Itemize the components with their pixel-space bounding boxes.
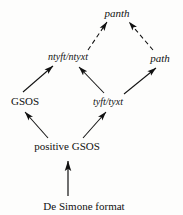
node-tyft-tyxt: tyft/tyxt — [93, 97, 123, 107]
edge-ntyft-panth — [88, 22, 107, 50]
node-panth: panth — [104, 8, 129, 19]
edge-tyft-path — [124, 68, 156, 94]
node-de-simone-format: De Simone format — [43, 201, 124, 212]
diagram-edges — [0, 0, 183, 215]
node-gsos: GSOS — [11, 96, 39, 107]
edge-path-panth — [129, 22, 153, 50]
edge-posgsos-gsos — [25, 112, 48, 138]
node-path: path — [150, 53, 170, 64]
node-ntyft-ntyxt: ntyft/ntyxt — [48, 52, 88, 62]
edge-tyft-ntyft — [79, 67, 104, 93]
node-positive-gsos: positive GSOS — [34, 141, 100, 152]
edge-posgsos-tyft — [83, 112, 106, 138]
hierarchy-diagram: panth ntyft/ntyxt path GSOS tyft/tyxt po… — [0, 0, 183, 215]
edge-gsos-ntyft — [23, 66, 53, 92]
